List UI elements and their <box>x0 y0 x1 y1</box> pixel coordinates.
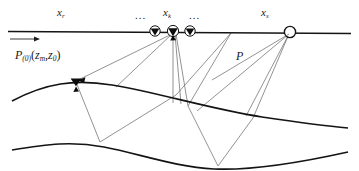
label-source-coordinate: xs <box>261 7 269 19</box>
surface-datum-line <box>8 32 351 34</box>
ellipsis-right: ... <box>189 10 200 21</box>
ray-mid-reflection-2 <box>188 33 231 106</box>
ray-source-leg-1 <box>253 34 289 118</box>
label-receiver-coordinate: xr <box>57 7 65 19</box>
reflector-interface-2 <box>12 144 348 170</box>
ray-left-deep-up <box>100 95 176 142</box>
ray-mid-deep-down <box>188 106 218 166</box>
direction-arrow <box>10 37 40 42</box>
geophone-left[interactable] <box>150 26 160 36</box>
ray-xk-left-leg <box>116 34 172 87</box>
ray-source-leg-3 <box>197 34 289 111</box>
geophone-right[interactable] <box>185 26 195 36</box>
label-wavefield-p0: P(0)(zm,z0) <box>15 49 60 62</box>
figure-canvas <box>0 0 359 171</box>
ray-source-leg-2 <box>246 34 289 116</box>
ray-xr-to-subsurface-down <box>76 34 172 81</box>
ray-left-deep-v <box>76 82 100 142</box>
ellipsis-left: ... <box>135 10 146 21</box>
ray-mid-deep-up <box>218 118 253 166</box>
label-wavefield-p: P <box>236 50 243 62</box>
direction-arrow-head <box>34 37 40 42</box>
geophone-group <box>150 25 195 36</box>
seismic-raypath-figure: xr ... xk ... xs P P(0)(zm,z0) <box>0 0 359 171</box>
label-trace-coordinate: xk <box>163 7 171 19</box>
geophone-center[interactable] <box>167 25 178 36</box>
ray-mid-reflection-1 <box>176 33 231 95</box>
